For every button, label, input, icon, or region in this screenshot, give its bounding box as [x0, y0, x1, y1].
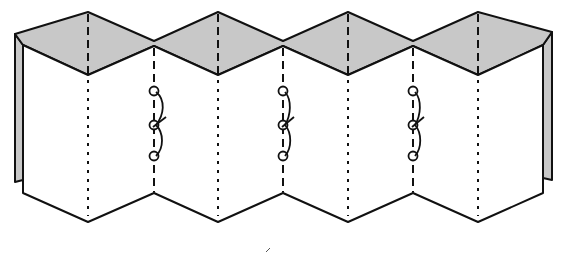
accordion-book-diagram — [0, 0, 561, 254]
diagram-canvas — [0, 0, 561, 254]
right-back-flap — [543, 32, 552, 180]
left-back-flap — [15, 34, 23, 182]
stray-mark — [266, 248, 270, 252]
